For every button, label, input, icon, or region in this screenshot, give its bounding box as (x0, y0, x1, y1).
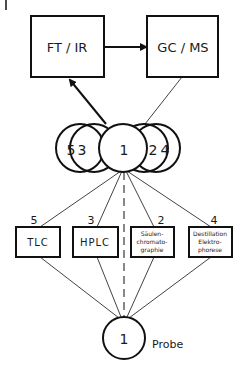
method-number: 4 (211, 214, 218, 227)
fraction-to-method-lines (40, 171, 211, 227)
method-label-line-3: phorese (198, 246, 222, 254)
fractions-to-gcms-line (145, 77, 182, 124)
analysis-flow-diagram: FT / IR GC / MS 5 3 1 2 4 5 TLC 3 HPLC (0, 0, 239, 369)
fractions-to-ftir-arrow (70, 80, 106, 124)
method-label-line-2: Elektro- (198, 238, 221, 245)
fraction-label-5: 5 (67, 142, 76, 158)
sample-to-method-lines (40, 257, 211, 318)
method-number: 5 (31, 214, 38, 227)
method-label-line-1: Destillation (193, 230, 227, 237)
method-number: 3 (88, 214, 95, 227)
fraction-label-2: 2 (149, 142, 158, 158)
fraction-label-3: 3 (78, 142, 87, 158)
sample-number: 1 (120, 331, 129, 347)
method-tlc: 5 TLC (16, 214, 60, 257)
method-destillation-elektrophorese: 4 Destillation Elektro- phorese (189, 214, 232, 257)
sample-label: Probe (152, 338, 183, 351)
method-number: 2 (158, 214, 165, 227)
gcms-label: GC / MS (157, 40, 208, 55)
method-hplc: 3 HPLC (73, 214, 118, 257)
method-label-line-3: graphie (141, 246, 164, 254)
method-label: TLC (26, 237, 49, 248)
ftir-label: FT / IR (47, 40, 88, 55)
gcms-box: GC / MS (147, 16, 218, 77)
method-label: HPLC (80, 237, 110, 248)
fraction-label-1: 1 (120, 142, 129, 158)
method-label-line-1: Säulen- (141, 230, 164, 237)
fraction-label-4: 4 (161, 142, 170, 158)
method-label-line-2: chromato- (137, 238, 168, 245)
method-saeulenchromatographie: 2 Säulen- chromato- graphie (131, 214, 174, 257)
sample-circle: 1 (103, 317, 145, 359)
ftir-box: FT / IR (31, 16, 104, 77)
